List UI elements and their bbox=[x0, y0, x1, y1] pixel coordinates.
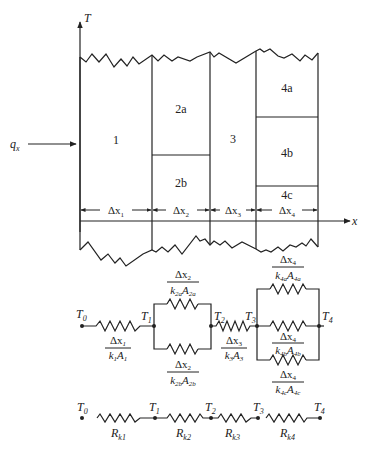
fraction-r1: Δx1 k1A1 bbox=[105, 334, 131, 363]
series-t0-label: T0 bbox=[77, 400, 88, 416]
fraction-r3: Δx3 k3A3 bbox=[221, 334, 247, 363]
series-resistor-rk4 bbox=[266, 414, 320, 422]
svg-text:Δx1: Δx1 bbox=[108, 204, 125, 219]
node-t0-label: T0 bbox=[76, 307, 87, 323]
node-t4-label: T4 bbox=[322, 309, 333, 325]
fraction-r2a: Δx2 k2aA2a bbox=[167, 268, 199, 298]
series-resistor-rk1 bbox=[97, 414, 155, 422]
section-2a-label: 2a bbox=[175, 102, 187, 116]
node-t3-label: T3 bbox=[245, 309, 256, 325]
wall-figure: T x 1 2a 2b 3 4a 4b 4c qx Δx1 bbox=[10, 11, 358, 266]
svg-text:k2aA2a: k2aA2a bbox=[170, 284, 196, 298]
svg-text:Δx2: Δx2 bbox=[175, 358, 192, 372]
resistor-r4a bbox=[270, 284, 306, 294]
svg-text:k4aA4a: k4aA4a bbox=[275, 269, 301, 283]
svg-text:Δx4: Δx4 bbox=[280, 368, 297, 382]
thermal-circuit-series: T0 T1 T2 T3 T4 Rk1 Rk2 Rk3 Rk4 bbox=[77, 400, 325, 442]
thermal-circuit-parallel: T0 T1 T2 T3 T4 Δx1 k1A1 Δx2 k2aA2a Δx2 k… bbox=[76, 253, 333, 397]
series-rk1-label: Rk1 bbox=[110, 426, 126, 442]
series-t4-label: T4 bbox=[314, 400, 325, 416]
svg-text:k2bA2b: k2bA2b bbox=[170, 374, 196, 388]
svg-text:k1A1: k1A1 bbox=[109, 349, 128, 363]
svg-text:Δx2: Δx2 bbox=[175, 268, 192, 282]
node-t4 bbox=[317, 324, 321, 328]
series-resistor-rk3 bbox=[211, 414, 258, 422]
section-4a-label: 4a bbox=[281, 81, 293, 95]
series-rk4-label: Rk4 bbox=[279, 426, 295, 442]
series-rk2-label: Rk2 bbox=[175, 426, 191, 442]
svg-text:Δx3: Δx3 bbox=[225, 204, 242, 219]
composite-wall-diagram: T x 1 2a 2b 3 4a 4b 4c qx Δx1 bbox=[0, 0, 372, 454]
svg-text:Δx3: Δx3 bbox=[226, 334, 243, 348]
node-t0 bbox=[80, 324, 84, 328]
series-t3-label: T3 bbox=[253, 400, 264, 416]
section-4b-label: 4b bbox=[281, 146, 293, 160]
series-node-t3 bbox=[256, 416, 260, 420]
x-axis-label: x bbox=[351, 214, 358, 228]
node-t2-label: T2 bbox=[214, 309, 225, 325]
series-t1-label: T1 bbox=[149, 400, 160, 416]
section-3-label: 3 bbox=[230, 132, 236, 146]
dimension-dx4: Δx4 bbox=[257, 204, 317, 219]
node-t1-label: T1 bbox=[141, 309, 152, 325]
section-2b-label: 2b bbox=[175, 176, 187, 190]
fraction-r4a: Δx4 k4aA4a bbox=[272, 253, 304, 283]
section-1-label: 1 bbox=[113, 133, 119, 147]
dimension-dx2: Δx2 bbox=[153, 204, 209, 219]
series-resistor-rk2 bbox=[155, 414, 211, 422]
resistor-r2b bbox=[167, 344, 198, 354]
section-4c-label: 4c bbox=[281, 188, 292, 202]
series-node-t4 bbox=[318, 416, 322, 420]
svg-text:Δx2: Δx2 bbox=[173, 204, 190, 219]
resistor-r2a bbox=[167, 299, 198, 309]
top-break-line bbox=[80, 49, 318, 67]
series-t2-label: T2 bbox=[205, 400, 216, 416]
t-axis-label: T bbox=[84, 11, 92, 25]
svg-text:Δx4: Δx4 bbox=[280, 253, 297, 267]
series-node-t0 bbox=[80, 416, 84, 420]
svg-text:Δx4: Δx4 bbox=[280, 330, 297, 344]
svg-text:k4bA4b: k4bA4b bbox=[275, 344, 301, 358]
svg-text:k3A3: k3A3 bbox=[225, 349, 244, 363]
svg-text:k4cA4c: k4cA4c bbox=[276, 383, 302, 397]
dimension-dx3: Δx3 bbox=[211, 204, 255, 219]
heat-flux-label: qx bbox=[10, 137, 20, 153]
series-rk3-label: Rk3 bbox=[224, 426, 240, 442]
fraction-r4c: Δx4 k4cA4c bbox=[272, 368, 304, 397]
svg-text:Δx1: Δx1 bbox=[110, 334, 126, 348]
svg-text:Δx4: Δx4 bbox=[279, 204, 296, 219]
fraction-r2b: Δx2 k2bA2b bbox=[167, 358, 199, 388]
fraction-r4b: Δx4 k4bA4b bbox=[272, 330, 304, 358]
dimension-dx1: Δx1 bbox=[81, 204, 151, 219]
